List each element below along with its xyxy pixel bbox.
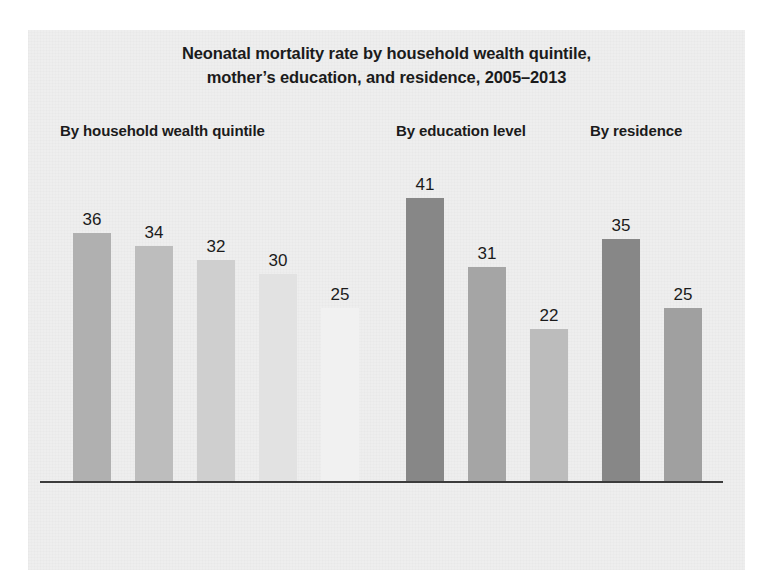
- axis-baseline: [40, 481, 723, 483]
- bar-rect: [259, 274, 297, 481]
- bar-value-label: 32: [184, 237, 248, 257]
- bar-value-label: 30: [246, 251, 310, 271]
- bar-rect: [406, 198, 444, 481]
- bar-rect: [135, 246, 173, 481]
- bar-rect: [197, 260, 235, 481]
- figure-panel: Neonatal mortality rate by household wea…: [28, 30, 745, 570]
- bar-value-label: 36: [60, 210, 124, 230]
- plot-area: 36Lowest34Second32Middle30Fourth25Highes…: [28, 30, 745, 570]
- bar-value-label: 34: [122, 223, 186, 243]
- bar-value-label: 41: [393, 175, 457, 195]
- bar-value-label: 25: [651, 285, 715, 305]
- bar-value-label: 22: [517, 306, 581, 326]
- bar-rect: [530, 329, 568, 481]
- bar-value-label: 31: [455, 244, 519, 264]
- bar-rect: [73, 233, 111, 481]
- bar-value-label: 35: [589, 216, 653, 236]
- bar-rect: [664, 308, 702, 481]
- bar-rect: [468, 267, 506, 481]
- bar-rect: [602, 239, 640, 481]
- bar-value-label: 25: [308, 285, 372, 305]
- bar-rect: [321, 308, 359, 481]
